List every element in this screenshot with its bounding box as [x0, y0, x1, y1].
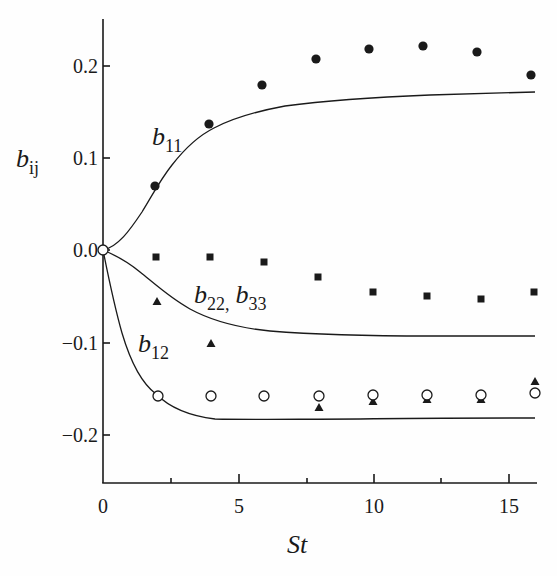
b12-label-base: b: [138, 329, 151, 358]
b22-point: [261, 259, 268, 266]
b11-point: [150, 181, 159, 190]
b12-point: [153, 391, 163, 401]
y-tick-labels: 0.2 0.1 0.0 −0.1 −0.2: [62, 55, 98, 446]
b11-point: [364, 44, 373, 53]
b11-point: [311, 54, 320, 63]
y-tick-label: 0.0: [73, 239, 98, 261]
b22-label-base: b: [194, 280, 207, 309]
b33-label-base: b: [236, 280, 249, 309]
b33-point: [207, 339, 216, 347]
x-axis-title: St: [287, 530, 308, 559]
b12-point: [206, 391, 216, 401]
b22-point: [153, 254, 160, 261]
b22-point: [315, 274, 322, 281]
y-tick-label: −0.1: [62, 332, 98, 354]
y-tick-label: 0.2: [73, 55, 98, 77]
b12-point: [476, 390, 486, 400]
x-tick-label: 15: [499, 495, 519, 517]
b22-point: [424, 293, 431, 300]
x-tick-label: 0: [98, 495, 108, 517]
b12-data-points: [98, 245, 540, 401]
b11-point: [257, 80, 266, 89]
chart-svg: 0.2 0.1 0.0 −0.1 −0.2 0 5 10 15 bij St: [0, 0, 557, 576]
b12-point: [368, 390, 378, 400]
b33-point: [531, 377, 540, 385]
y-axis-title-base: b: [16, 144, 29, 173]
b11-label-base: b: [152, 122, 165, 151]
y-tick-label: 0.1: [73, 147, 98, 169]
b11-label-sub: 11: [165, 136, 182, 156]
b22-point: [478, 296, 485, 303]
b12-point: [530, 388, 540, 398]
b11-curve: [103, 92, 535, 250]
y-axis-title: bij: [16, 144, 39, 178]
b12-point: [259, 391, 269, 401]
b33-point: [315, 403, 324, 411]
b22-point: [531, 289, 538, 296]
b11-data-points: [150, 41, 535, 190]
b12-point: [422, 390, 432, 400]
b12-label-sub: 12: [151, 343, 169, 363]
axes: [102, 19, 537, 483]
x-tick-label: 10: [364, 495, 384, 517]
b22-point: [370, 289, 377, 296]
b11-point: [472, 47, 481, 56]
b22-point: [207, 254, 214, 261]
b11-point: [204, 119, 213, 128]
b12-label: b12: [138, 329, 169, 363]
y-axis-title-sub: ij: [29, 158, 39, 178]
b22-b33-label: b22,b33: [194, 280, 267, 314]
b33-point: [153, 297, 162, 305]
x-tick-labels: 0 5 10 15: [98, 495, 519, 517]
b11-point: [526, 70, 535, 79]
chart-container: 0.2 0.1 0.0 −0.1 −0.2 0 5 10 15 bij St: [0, 0, 557, 576]
b12-point-origin: [98, 245, 108, 255]
b22-label-sub: 22,: [207, 294, 230, 314]
b12-point: [314, 391, 324, 401]
b11-label: b11: [152, 122, 182, 156]
b33-label-sub: 33: [249, 294, 267, 314]
y-tick-label: −0.2: [62, 424, 98, 446]
b22-b33-curve: [103, 250, 535, 336]
b11-point: [418, 41, 427, 50]
x-tick-label: 5: [234, 495, 244, 517]
